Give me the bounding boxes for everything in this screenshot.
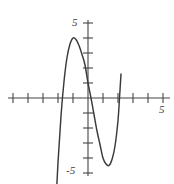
cubic-graph-plot (0, 0, 174, 184)
cubic-curve (47, 38, 121, 184)
x-axis-label-5: 5 (159, 104, 165, 115)
chart-figure: 5 -5 5 (0, 0, 174, 184)
x-axis (8, 93, 170, 103)
y-axis-label-negative-5: -5 (66, 165, 75, 176)
y-axis-label-5: 5 (72, 17, 78, 28)
